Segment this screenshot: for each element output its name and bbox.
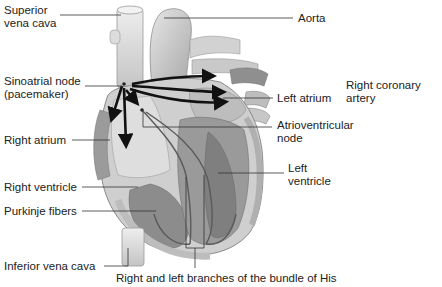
label-inferior-vena-cava: Inferior vena cava	[4, 260, 95, 273]
heart-body	[94, 78, 263, 256]
label-right-atrium: Right atrium	[4, 134, 66, 147]
heart-illustration	[0, 0, 442, 287]
label-superior-vena-cava: Superior vena cava	[4, 4, 56, 30]
label-right-coronary-artery: Right coronary artery	[346, 79, 421, 105]
label-aorta: Aorta	[298, 12, 326, 25]
heart-diagram: Superior vena cava Aorta Sinoatrial node…	[0, 0, 442, 287]
label-bundle-of-his: Right and left branches of the bundle of…	[116, 272, 337, 285]
sa-node-marker	[122, 82, 126, 86]
label-atrioventricular-node: Atrioventricular node	[277, 119, 354, 145]
label-left-ventricle: Left ventricle	[288, 162, 331, 188]
av-node-marker	[140, 108, 144, 112]
label-purkinje-fibers: Purkinje fibers	[4, 205, 77, 218]
inferior-vena-cava-shape	[122, 228, 144, 266]
label-sinoatrial-node: Sinoatrial node (pacemaker)	[4, 75, 81, 101]
superior-vena-cava-shape	[110, 6, 143, 88]
label-left-atrium: Left atrium	[277, 92, 331, 105]
label-right-ventricle: Right ventricle	[4, 181, 77, 194]
